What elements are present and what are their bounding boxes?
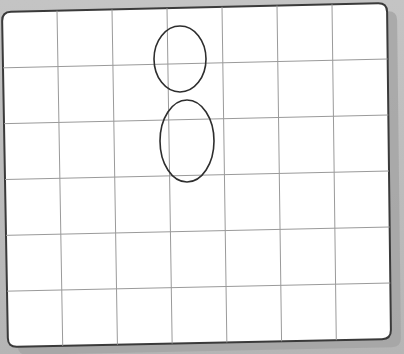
whiteboard-photo xyxy=(0,0,404,354)
grid-board xyxy=(0,0,404,354)
